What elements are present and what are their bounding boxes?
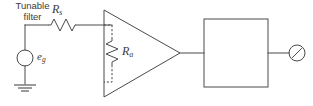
amplifier-triangle-symbol: [104, 10, 180, 97]
voltage-source: [17, 25, 33, 84]
meter-symbol: [289, 45, 305, 61]
circuit-schematic-canvas: [0, 0, 313, 106]
ra-top-dashed-lead: [104, 25, 112, 38]
amplifier-input-resistor: [104, 25, 118, 82]
source-circle-icon: [17, 50, 33, 66]
ra-bottom-dashed-lead: [104, 65, 112, 82]
series-resistor-subscript-text: s: [59, 8, 62, 17]
tunable-filter-box: [204, 19, 268, 87]
circuit-diagram: Rs Ra eg Tunablefilter: [0, 0, 313, 106]
amplifier-resistor-label: Ra: [122, 45, 133, 59]
series-resistor-symbol: [48, 19, 76, 31]
meter-needle-icon: [293, 49, 302, 58]
voltage-source-subscript-text: g: [42, 55, 46, 64]
amplifier-resistor-subscript-text: a: [129, 50, 133, 59]
voltage-source-label: eg: [37, 51, 46, 64]
ground-symbol-icon: [14, 85, 36, 91]
ra-resistor-symbol: [106, 38, 118, 65]
series-resistor-label: Rs: [52, 3, 63, 17]
